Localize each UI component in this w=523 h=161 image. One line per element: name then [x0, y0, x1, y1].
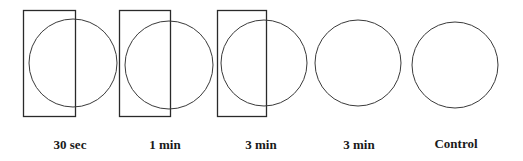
- panel-label: 3 min: [245, 137, 277, 152]
- panel-30-sec: 30 sec: [24, 11, 118, 153]
- circle-shape: [29, 19, 117, 107]
- panel-label: 3 min: [343, 137, 375, 152]
- circle-shape: [221, 20, 307, 106]
- rectangle-overlay: [120, 11, 171, 117]
- circle-shape: [412, 22, 498, 108]
- panel-3-min-with-rect: 3 min: [218, 11, 308, 153]
- panel-label: Control: [434, 136, 477, 151]
- panel-label: 30 sec: [54, 137, 87, 152]
- panel-label: 1 min: [149, 137, 181, 152]
- figure-canvas: 30 sec 1 min 3 min 3 min Control: [0, 0, 523, 161]
- panel-3-min: 3 min: [315, 20, 401, 152]
- circle-shape: [315, 20, 401, 106]
- panel-1-min: 1 min: [120, 11, 214, 153]
- circle-shape: [125, 21, 213, 109]
- panel-control: Control: [412, 22, 498, 151]
